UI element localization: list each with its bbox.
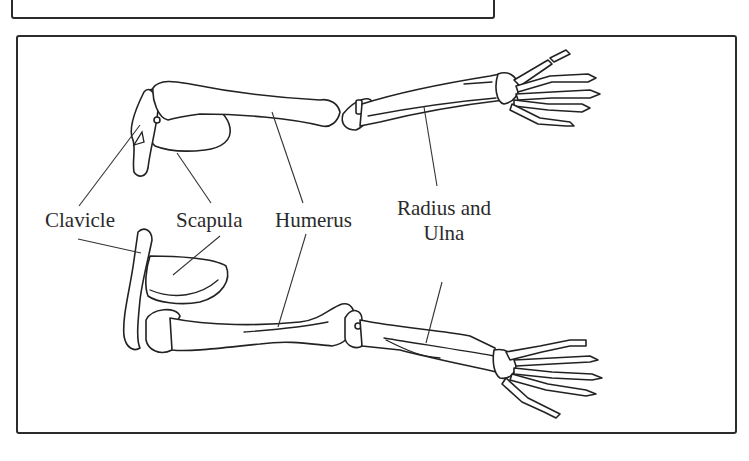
label-scapula: Scapula <box>176 210 242 231</box>
humerus-lower <box>170 304 355 351</box>
label-clavicle: Clavicle <box>45 210 115 231</box>
label-radius-and: Radius and <box>384 196 504 221</box>
radius-ulna-upper <box>360 74 504 126</box>
label-ulna: Ulna <box>384 221 504 246</box>
lower-arm-bones <box>124 229 602 418</box>
label-radius-ulna: Radius and Ulna <box>384 196 504 246</box>
label-humerus: Humerus <box>275 210 352 231</box>
radius-ulna-lower <box>360 320 496 372</box>
upper-arm-bones <box>131 50 600 176</box>
